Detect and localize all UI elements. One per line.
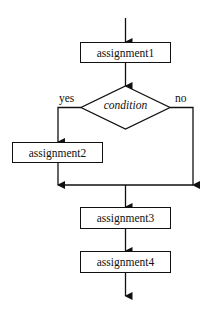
assignment1-box: assignment1 — [80, 42, 171, 63]
assignment4-label: assignment4 — [97, 256, 155, 268]
assignment2-box: assignment2 — [12, 142, 103, 163]
no-branch-arrow — [170, 108, 193, 186]
assignment3-box: assignment3 — [80, 207, 171, 229]
no-label: no — [175, 92, 187, 104]
assignment4-box: assignment4 — [80, 251, 171, 273]
condition-label: condition — [81, 99, 171, 111]
assignment2-label: assignment2 — [29, 147, 87, 159]
yes-label: yes — [59, 92, 74, 104]
assignment1-label: assignment1 — [97, 47, 155, 59]
yes-branch-arrow — [58, 108, 81, 143]
assignment3-label: assignment3 — [97, 212, 155, 224]
